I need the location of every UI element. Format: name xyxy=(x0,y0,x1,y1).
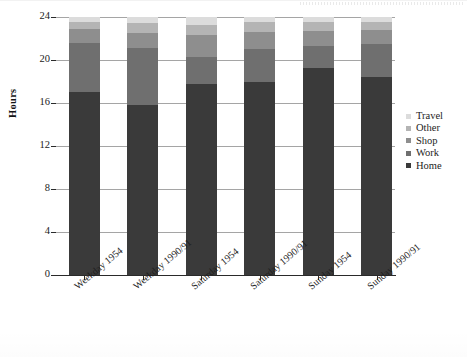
bar-6 xyxy=(361,17,392,275)
bar-segment-shop xyxy=(69,29,100,43)
gridline xyxy=(56,60,395,61)
plot-area: 04812162024 xyxy=(56,17,395,275)
legend-swatch-shop xyxy=(406,138,411,143)
y-axis-tick-label: 16 xyxy=(30,97,50,107)
gridline xyxy=(56,103,395,104)
legend-item-home: Home xyxy=(406,160,443,172)
chart-figure: Hours 04812162024 Weekday 1954Weekday 19… xyxy=(0,0,467,357)
bar-segment-travel xyxy=(69,17,100,22)
y-axis-tick-label: 24 xyxy=(30,11,50,21)
legend-swatch-home xyxy=(406,163,411,168)
y-axis-tick xyxy=(51,232,56,233)
bar-segment-other xyxy=(361,22,392,30)
bar-segment-work xyxy=(186,57,217,84)
bar-segment-work xyxy=(361,44,392,77)
legend-label: Other xyxy=(416,122,440,134)
bar-segment-work xyxy=(244,49,275,81)
legend-label: Shop xyxy=(416,135,438,147)
page-smudge xyxy=(0,330,467,357)
y-axis-tick-label: 0 xyxy=(30,269,50,279)
bar-segment-shop xyxy=(361,30,392,44)
x-axis-line xyxy=(56,275,396,276)
bar-segment-work xyxy=(127,48,158,105)
bar-segment-shop xyxy=(186,35,217,57)
scan-artifact-dots xyxy=(300,2,465,5)
bar-2 xyxy=(127,17,158,275)
legend-swatch-other xyxy=(406,126,411,131)
bar-segment-other xyxy=(69,22,100,28)
legend-item-travel: Travel xyxy=(406,110,443,122)
y-axis-title: Hours xyxy=(7,88,18,118)
chart-legend: TravelOtherShopWorkHome xyxy=(406,110,443,172)
legend-item-work: Work xyxy=(406,147,443,159)
gridline xyxy=(56,146,395,147)
bar-segment-travel xyxy=(303,17,334,22)
legend-swatch-work xyxy=(406,151,411,156)
gridline xyxy=(56,17,395,18)
bar-segment-travel xyxy=(244,17,275,22)
bar-1 xyxy=(69,17,100,275)
bar-segment-travel xyxy=(127,17,158,23)
bar-segment-other xyxy=(186,25,217,36)
bar-segment-other xyxy=(244,22,275,32)
y-axis-tick xyxy=(51,60,56,61)
legend-label: Work xyxy=(416,147,439,159)
bar-segment-travel xyxy=(361,17,392,22)
legend-item-other: Other xyxy=(406,122,443,134)
y-axis-tick-label: 8 xyxy=(30,183,50,193)
y-axis-tick xyxy=(51,17,56,18)
y-axis-tick xyxy=(51,103,56,104)
bar-segment-home xyxy=(244,82,275,276)
bar-segment-home xyxy=(361,77,392,275)
bar-segment-other xyxy=(127,23,158,33)
y-axis-tick xyxy=(51,146,56,147)
legend-label: Home xyxy=(416,160,442,172)
y-axis-tick xyxy=(51,275,56,276)
legend-swatch-travel xyxy=(406,114,411,119)
bar-segment-other xyxy=(303,22,334,31)
y-axis-tick-label: 20 xyxy=(30,54,50,64)
y-axis-tick-label: 12 xyxy=(30,140,50,150)
bar-segment-work xyxy=(69,43,100,92)
bar-4 xyxy=(244,17,275,275)
bar-segment-shop xyxy=(303,31,334,46)
bar-segment-work xyxy=(303,46,334,68)
bar-5 xyxy=(303,17,334,275)
bar-segment-home xyxy=(127,105,158,275)
gridline xyxy=(56,232,395,233)
y-axis-tick-label: 4 xyxy=(30,226,50,236)
bar-segment-shop xyxy=(244,32,275,49)
gridline xyxy=(56,189,395,190)
legend-label: Travel xyxy=(416,110,443,122)
bar-segment-home xyxy=(69,92,100,275)
bar-3 xyxy=(186,17,217,275)
bar-segment-shop xyxy=(127,33,158,48)
scan-artifact-edge xyxy=(0,0,467,1)
bar-segment-travel xyxy=(186,17,217,25)
y-axis-tick xyxy=(51,189,56,190)
legend-item-shop: Shop xyxy=(406,135,443,147)
